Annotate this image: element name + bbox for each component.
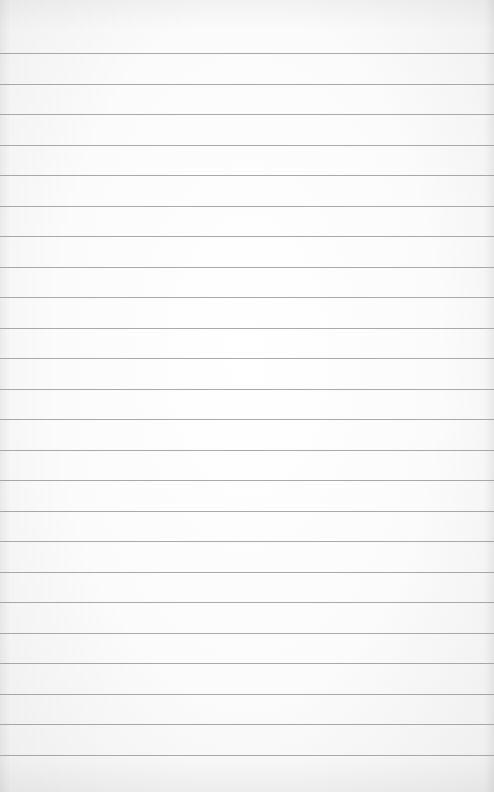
paper-shading-top [0,0,494,30]
ruled-line [0,206,494,207]
ruled-line [0,175,494,176]
ruled-line [0,541,494,542]
ruled-line [0,755,494,756]
ruled-line [0,694,494,695]
paper-shading-bottom [0,756,494,792]
ruled-line [0,297,494,298]
ruled-line [0,511,494,512]
ruled-line [0,724,494,725]
ruled-line [0,53,494,54]
ruled-line [0,145,494,146]
paper-shading-right [484,0,494,792]
ruled-line [0,84,494,85]
ruled-line [0,267,494,268]
ruled-line [0,602,494,603]
ruled-line [0,633,494,634]
ruled-line [0,663,494,664]
ruled-line [0,419,494,420]
ruled-line [0,328,494,329]
ruled-line [0,236,494,237]
ruled-line [0,480,494,481]
ruled-line [0,358,494,359]
lined-paper-sheet [0,0,494,792]
ruled-line [0,450,494,451]
ruled-line [0,114,494,115]
ruled-line [0,572,494,573]
ruled-line [0,389,494,390]
paper-shading-left [0,0,10,792]
